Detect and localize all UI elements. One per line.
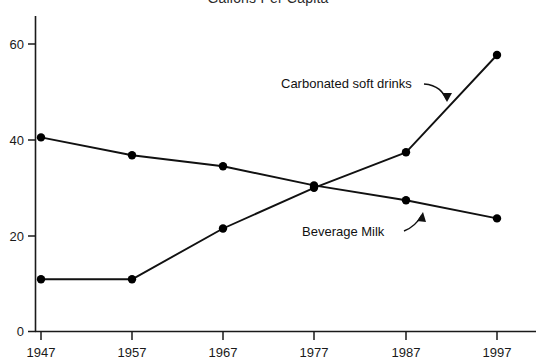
series-beverage-milk xyxy=(37,133,501,222)
x-tick-label-1977: 1977 xyxy=(300,345,329,360)
annotation-label-beverage-milk: Beverage Milk xyxy=(302,224,385,239)
series-line xyxy=(41,137,497,218)
data-point-marker xyxy=(37,275,45,283)
x-tick-label-1947: 1947 xyxy=(27,345,56,360)
y-tick-label-60: 60 xyxy=(10,37,24,52)
data-point-marker xyxy=(128,151,136,159)
x-axis-tick-labels: 1947 1957 1967 1977 1987 1997 xyxy=(27,345,512,360)
x-tick-label-1997: 1997 xyxy=(483,345,512,360)
data-point-marker xyxy=(402,148,410,156)
x-tick-label-1957: 1957 xyxy=(118,345,147,360)
data-point-marker xyxy=(493,51,501,59)
annotation-arrow-soft-drinks xyxy=(424,84,447,100)
annotation-arrow-beverage-milk xyxy=(404,215,422,231)
annotation-beverage-milk: Beverage Milk xyxy=(302,212,426,239)
data-point-marker xyxy=(37,133,45,141)
annotation-arrowhead-soft-drinks xyxy=(442,93,452,102)
series-line xyxy=(41,55,497,279)
y-axis-ticks xyxy=(28,44,36,332)
data-point-marker xyxy=(402,196,410,204)
annotation-arrowhead-beverage-milk xyxy=(417,212,426,222)
data-point-marker xyxy=(219,224,227,232)
annotation-label-soft-drinks: Carbonated soft drinks xyxy=(281,76,412,91)
data-point-marker xyxy=(310,184,318,192)
x-axis-ticks xyxy=(41,332,497,341)
annotation-carbonated-soft-drinks: Carbonated soft drinks xyxy=(281,76,452,102)
y-tick-label-0: 0 xyxy=(17,324,24,339)
data-point-marker xyxy=(128,275,136,283)
x-tick-label-1987: 1987 xyxy=(392,345,421,360)
x-tick-label-1967: 1967 xyxy=(209,345,238,360)
y-tick-label-40: 40 xyxy=(10,133,24,148)
chart-figure: Gallons Per Capita 0 20 40 60 xyxy=(0,0,536,364)
y-axis-tick-labels: 0 20 40 60 xyxy=(10,37,24,339)
data-point-marker xyxy=(219,162,227,170)
line-chart-plot: 0 20 40 60 1947 1957 1967 1977 1987 1997… xyxy=(0,0,536,364)
data-point-marker xyxy=(493,214,501,222)
axis-lines xyxy=(35,16,536,332)
y-tick-label-20: 20 xyxy=(10,229,24,244)
